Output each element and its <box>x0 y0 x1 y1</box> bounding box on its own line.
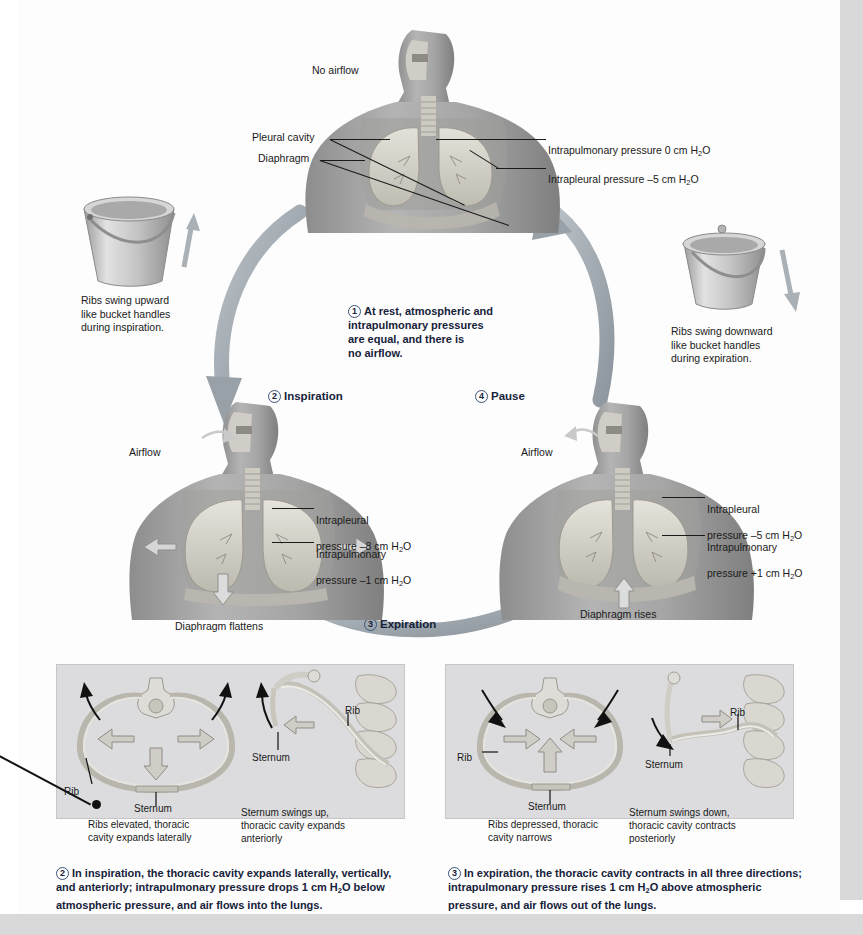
bucket-right-caption: Ribs swing downward like bucket handles … <box>671 325 773 366</box>
intrapulmonary-left-label: Intrapulmonary pressure –1 cm H2O <box>316 535 411 590</box>
diaphragm-down-arrow-icon <box>210 574 236 606</box>
intrapulmonary-top-leader-2 <box>436 139 508 140</box>
intrapleural-right-leader <box>662 497 705 498</box>
intrapulmonary-pressure-top-text: Intrapulmonary pressure 0 cm H <box>548 144 698 156</box>
rib-label-bl-b: Rib <box>345 705 360 716</box>
h2o-tail-2: O <box>690 173 698 185</box>
step-1-number: 1 <box>348 305 361 318</box>
bottom-caption-inspiration: 2In inspiration, the thoracic cavity exp… <box>56 852 436 912</box>
sternum-down-diagram <box>636 670 788 800</box>
intrapulmonary-right-leader <box>662 535 705 536</box>
sternum-label-br-b: Sternum <box>645 759 683 770</box>
pleural-cavity-leader <box>330 139 390 140</box>
intrapleural-left-line1: Intrapleural <box>316 514 369 526</box>
sternum-label-bl-b: Sternum <box>252 752 290 763</box>
caption-br-b: Sternum swings down, thoracic cavity con… <box>629 806 736 845</box>
bucket-left-icon <box>62 193 212 291</box>
intrapulmonary-pressure-top-label: Intrapulmonary pressure 0 cm H2O <box>548 131 710 160</box>
sternum-label-bl-a: Sternum <box>134 803 172 814</box>
diaphragm-flattens-label: Diaphragm flattens <box>175 620 263 633</box>
intrapulmonary-right-label: Intrapulmonary pressure +1 cm H2O <box>707 528 803 583</box>
bottom-caption-3-number: 3 <box>448 867 461 880</box>
airflow-label-right: Airflow <box>521 446 553 459</box>
intrapleural-top-leader <box>496 168 546 169</box>
intrapleural-pressure-top-text: Intrapleural pressure –5 cm H <box>548 173 686 185</box>
bottom-caption-2-number: 2 <box>56 867 69 880</box>
step-1-text: At rest, atmospheric and intrapulmonary … <box>348 305 493 359</box>
caption-bl-b: Sternum swings up, thoracic cavity expan… <box>241 806 345 845</box>
pleural-cavity-label: Pleural cavity <box>252 131 314 144</box>
cross-section-inspiration-diagram <box>66 672 246 800</box>
intrapleural-left-leader <box>272 508 314 509</box>
sternum-label-br-a: Sternum <box>528 801 566 812</box>
figure-page: No airflow Pleural cavity Diaphragm Intr… <box>0 0 863 935</box>
diaphragm-label: Diaphragm <box>258 152 309 165</box>
intrapulmonary-right-line1: Intrapulmonary <box>707 541 777 553</box>
bottom-caption-expiration: 3In expiration, the thoracic cavity cont… <box>448 852 838 912</box>
airflow-label-left: Airflow <box>129 446 161 459</box>
h2o-tail-4: O <box>403 574 411 586</box>
h2o-tail-6: O <box>794 567 802 579</box>
h2o-tail-1: O <box>702 144 710 156</box>
top-no-airflow-label: No airflow <box>312 64 359 77</box>
rib-label-br-b: Rib <box>730 707 745 718</box>
intrapulmonary-top-leader <box>506 139 546 140</box>
cross-section-expiration-diagram <box>460 672 640 800</box>
bucket-left-caption: Ribs swing upward like bucket handles du… <box>81 294 170 335</box>
step-4-number: 4 <box>475 390 488 403</box>
sternum-up-diagram <box>248 670 400 800</box>
torso-figure-rest <box>300 28 565 233</box>
intrapulmonary-left-leader <box>272 542 314 543</box>
intrapleural-pressure-top-label: Intrapleural pressure –5 cm H2O <box>548 160 699 189</box>
caption-bl-a: Ribs elevated, thoracic cavity expands l… <box>88 818 191 844</box>
diaphragm-leader <box>320 160 365 161</box>
diaphragm-up-arrow-icon <box>611 578 637 608</box>
caption-br-a: Ribs depressed, thoracic cavity narrows <box>488 818 598 844</box>
intrapulmonary-right-line2: pressure +1 cm H <box>707 567 790 579</box>
intrapleural-right-line1: Intrapleural <box>707 503 760 515</box>
intrapulmonary-left-line2: pressure –1 cm H <box>316 574 399 586</box>
diaphragm-rises-label: Diaphragm rises <box>580 608 656 621</box>
intrapulmonary-left-line1: Intrapulmonary <box>316 548 386 560</box>
bucket-right-icon <box>646 208 806 314</box>
step-1-text-block: 1At rest, atmospheric and intrapulmonary… <box>348 290 538 360</box>
callout-pointer-dot <box>92 800 101 809</box>
rib-label-br-a: Rib <box>457 752 472 763</box>
